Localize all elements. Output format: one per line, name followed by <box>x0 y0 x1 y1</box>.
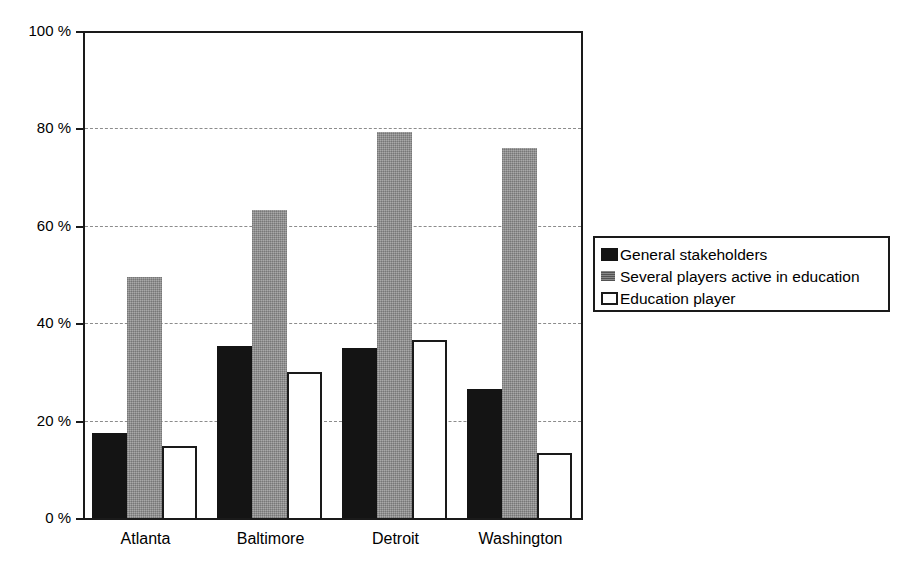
bar <box>377 132 412 518</box>
y-axis-tick-label: 0 % <box>0 510 71 525</box>
y-axis-tick-mark <box>76 128 83 130</box>
legend-item: General stakeholders <box>595 243 888 265</box>
y-axis-tick-mark <box>76 421 83 423</box>
legend-item-label: Several players active in education <box>620 268 860 285</box>
legend-item-label: Education player <box>620 290 735 307</box>
bar <box>162 446 197 518</box>
x-axis-category-label: Baltimore <box>208 530 333 548</box>
bar <box>217 346 252 518</box>
bar <box>287 372 322 518</box>
y-axis-tick-mark <box>76 518 83 520</box>
y-axis-tick-mark <box>76 31 83 33</box>
bar <box>252 210 287 518</box>
y-axis-tick-mark <box>76 226 83 228</box>
y-axis-tick-label: 20 % <box>0 413 71 428</box>
x-axis-category-label: Washington <box>458 530 583 548</box>
legend-item-label: General stakeholders <box>620 246 767 263</box>
bar <box>342 348 377 518</box>
y-axis-tick-label: 100 % <box>0 23 71 38</box>
bar <box>467 389 502 518</box>
legend-swatch-icon <box>601 248 618 261</box>
y-axis-tick-label: 80 % <box>0 120 71 135</box>
bars-layer <box>83 31 583 520</box>
y-axis-tick-label: 60 % <box>0 218 71 233</box>
legend-swatch-icon <box>601 292 618 305</box>
bar <box>127 277 162 518</box>
legend-swatch-icon <box>601 271 615 281</box>
bar <box>92 433 127 518</box>
y-axis-tick-label: 40 % <box>0 315 71 330</box>
bar <box>412 340 447 518</box>
x-axis-category-label: Detroit <box>333 530 458 548</box>
legend-item: Several players active in education <box>595 265 888 287</box>
bar-chart: 0 %20 %40 %60 %80 %100 % AtlantaBaltimor… <box>0 0 913 568</box>
y-axis-tick-mark <box>76 323 83 325</box>
bar <box>537 453 572 518</box>
x-axis-category-label: Atlanta <box>83 530 208 548</box>
legend: General stakeholders Several players act… <box>593 236 890 312</box>
bar <box>502 148 537 518</box>
legend-item: Education player <box>595 287 888 309</box>
